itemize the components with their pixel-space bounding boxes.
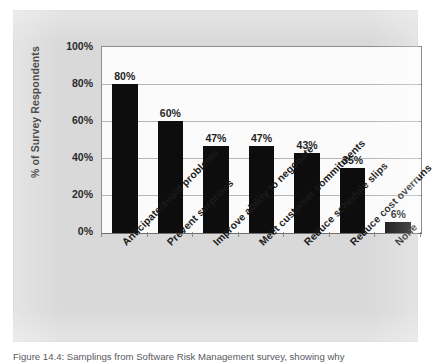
bar-value-label: 47% <box>239 132 285 144</box>
x-tick <box>420 232 421 237</box>
y-tick-label-80: 80% <box>49 77 93 89</box>
y-axis-title: % of Survey Respondents <box>29 27 41 197</box>
y-tick-label-60: 60% <box>49 114 93 126</box>
bar-series: 80% 60% 47% 47% 43% 35% <box>102 47 421 233</box>
bar-value-label: 60% <box>148 107 194 119</box>
bar-value-label: 47% <box>193 132 239 144</box>
y-tick-label-20: 20% <box>49 188 93 200</box>
bar[interactable] <box>112 84 138 233</box>
y-tick-label-40: 40% <box>49 151 93 163</box>
bar-value-label: 80% <box>102 70 148 82</box>
x-axis-category-labels: Anticipate/avoid problems Prevent surpri… <box>13 232 418 342</box>
figure-panel: % of Survey Respondents 100% 80% 60% 40%… <box>13 10 418 342</box>
figure-caption: Figure 14.4: Samplings from Software Ris… <box>13 351 417 363</box>
bar-slot: 80% <box>102 47 148 233</box>
y-tick-label-100: 100% <box>49 40 93 52</box>
bar[interactable] <box>158 121 184 233</box>
